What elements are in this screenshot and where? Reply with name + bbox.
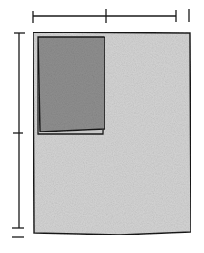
- inner-rect: [38, 37, 105, 132]
- diagram-canvas: [0, 0, 204, 253]
- top-dimension-line: [33, 9, 189, 23]
- left-dimension-line: [12, 33, 25, 237]
- sketch-svg: [0, 0, 204, 253]
